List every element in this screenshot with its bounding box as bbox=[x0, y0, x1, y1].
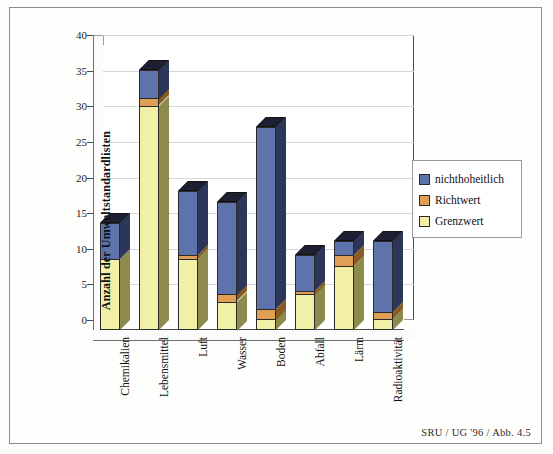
bar-segment-nichthoheitlich bbox=[256, 127, 276, 309]
bar-segment-side bbox=[120, 249, 130, 330]
legend-swatch-icon bbox=[419, 174, 430, 185]
bar-segment-side bbox=[276, 117, 286, 309]
y-axis-title: Anzahl der Umweltstandardlisten bbox=[99, 121, 114, 321]
legend-swatch-icon bbox=[419, 195, 430, 206]
legend: nichthoheitlich Richtwert Grenzwert bbox=[412, 160, 522, 238]
y-axis-tick bbox=[87, 71, 93, 72]
legend-item-grenzwert: Grenzwert bbox=[419, 215, 515, 227]
bar-segment-nichthoheitlich bbox=[295, 255, 315, 291]
y-axis-tick bbox=[87, 284, 93, 285]
y-axis-title-wrap: Anzahl der Umweltstandardlisten bbox=[57, 45, 87, 330]
bar-segment-richtwert bbox=[334, 255, 354, 266]
bar-segment-side bbox=[198, 181, 208, 255]
bar-segment-grenzwert bbox=[334, 266, 354, 330]
bar-segment-side bbox=[198, 249, 208, 330]
x-axis-label: Radioaktivität bbox=[392, 337, 404, 402]
bar-segment-side bbox=[393, 231, 403, 312]
y-axis-tick bbox=[87, 106, 93, 107]
bar-segment-grenzwert bbox=[217, 302, 237, 331]
x-axis-label: Lärm bbox=[353, 337, 365, 362]
bar-segment-richtwert bbox=[373, 312, 393, 319]
bar-segment-side bbox=[237, 192, 247, 295]
x-axis-label: Chemikalien bbox=[119, 337, 131, 396]
bar-segment-grenzwert bbox=[373, 319, 393, 330]
x-axis-label: Abfall bbox=[314, 337, 326, 366]
y-axis-tick bbox=[87, 320, 93, 321]
bar-segment-grenzwert bbox=[295, 294, 315, 330]
bar-segment-richtwert bbox=[295, 291, 315, 295]
bar-segment-side bbox=[159, 96, 169, 330]
bar-segment-richtwert bbox=[178, 255, 198, 259]
legend-item-richtwert: Richtwert bbox=[419, 194, 515, 206]
x-axis-label: Wasser bbox=[236, 337, 248, 370]
figure-page: 0510152025303540 Anzahl der Umweltstanda… bbox=[0, 0, 553, 454]
bar-segment-grenzwert bbox=[256, 319, 276, 330]
y-axis-tick bbox=[87, 178, 93, 179]
y-axis-tick-label: 40 bbox=[76, 29, 87, 41]
y-axis-tick bbox=[87, 213, 93, 214]
bar-segment-nichthoheitlich bbox=[334, 241, 354, 255]
bar-segment-richtwert bbox=[139, 98, 159, 105]
bar-segment-richtwert bbox=[256, 309, 276, 320]
legend-label: nichthoheitlich bbox=[435, 173, 504, 185]
legend-label: Grenzwert bbox=[435, 215, 484, 227]
x-axis-label: Boden bbox=[275, 337, 287, 367]
plot-area bbox=[93, 45, 404, 330]
y-axis-tick bbox=[87, 142, 93, 143]
bar-segment-grenzwert bbox=[178, 259, 198, 330]
bar-segment-richtwert bbox=[217, 294, 237, 301]
legend-swatch-icon bbox=[419, 216, 430, 227]
bar-segment-nichthoheitlich bbox=[373, 241, 393, 312]
legend-label: Richtwert bbox=[435, 194, 480, 206]
bars-layer bbox=[93, 45, 404, 330]
x-axis-tick-labels: ChemikalienLebensmittelLuftWasserBodenAb… bbox=[93, 333, 414, 428]
y-axis-tick bbox=[87, 35, 93, 36]
grid-line bbox=[103, 35, 414, 36]
bar-segment-nichthoheitlich bbox=[217, 202, 237, 295]
x-axis-label: Luft bbox=[197, 337, 209, 357]
bar-segment-grenzwert bbox=[139, 106, 159, 330]
legend-item-nichthoheitlich: nichthoheitlich bbox=[419, 173, 515, 185]
bar-segment-nichthoheitlich bbox=[139, 70, 159, 99]
bar-segment-side bbox=[354, 256, 364, 330]
x-axis-label: Lebensmittel bbox=[158, 337, 170, 397]
bar-segment-nichthoheitlich bbox=[178, 191, 198, 255]
figure-source-note: SRU / UG '96 / Abb. 4.5 bbox=[421, 427, 531, 438]
y-axis-tick bbox=[87, 249, 93, 250]
